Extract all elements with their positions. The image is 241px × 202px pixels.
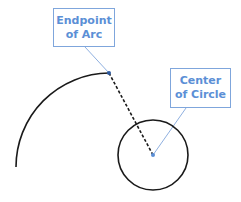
center-leader-line: [153, 108, 186, 155]
arc-endpoint-dot: [107, 71, 111, 75]
arc: [16, 73, 109, 167]
callout-line-2: of Circle: [171, 88, 230, 102]
endpoint-of-arc-callout: Endpoint of Arc: [53, 8, 115, 47]
dashed-radius-line: [109, 73, 153, 155]
center-of-circle-callout: Center of Circle: [170, 68, 231, 108]
circle-center-dot: [151, 153, 155, 157]
callout-line-1: Endpoint: [54, 14, 114, 28]
endpoint-leader-line: [85, 47, 109, 73]
callout-line-2: of Arc: [54, 28, 114, 42]
callout-line-1: Center: [171, 74, 230, 88]
